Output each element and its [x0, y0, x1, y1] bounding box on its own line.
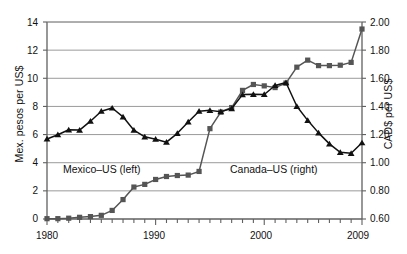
plot-svg	[0, 0, 407, 254]
chart-container: Mex. pesos per US$ CAD$ per US$ 14 12 10…	[0, 0, 407, 254]
